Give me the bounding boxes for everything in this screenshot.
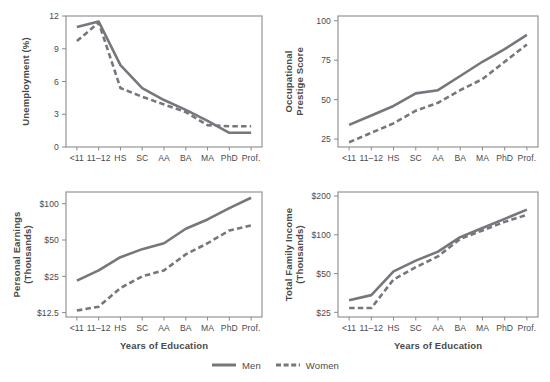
x-category-label: PhD [496,153,513,163]
x-category-label: MA [476,153,489,163]
x-category-label: AA [432,153,444,163]
y-axis-title-line: (Thousands) [294,225,305,284]
panel-personal-earnings: $12.5$25$50$100<1111–12HSSCAABAMAPhDProf… [0,184,275,356]
occupational-prestige-plot-frame [338,16,538,147]
y-axis-title: Personal Earnings(Thousands) [11,212,33,298]
x-axis-title: Years of Education [394,340,482,351]
x-category-label: 11–12 [87,323,111,333]
y-tick-label: 9 [54,44,59,54]
x-category-label: <11 [70,323,84,333]
y-axis-title-line: Personal Earnings [11,212,22,298]
y-axis-title: OccupationalPrestige Score [283,47,305,116]
y-tick-label: 100 [316,16,331,26]
legend-swatch-women-dashed [275,361,301,369]
y-tick-label: $25 [316,308,331,318]
x-category-label: <11 [342,153,356,163]
y-axis-title-line: Unemployment (%) [20,37,31,125]
y-axis-title: Total Family Income(Thousands) [283,208,305,301]
x-category-label: PhD [221,153,238,163]
x-category-label: AA [158,153,170,163]
x-category-label: BA [180,323,192,333]
chart-legend: Men Women [0,352,550,378]
x-category-label: HS [114,323,126,333]
panel-occupational-prestige: 255075100<1111–12HSSCAABAMAPhDProf.Occup… [272,2,550,182]
legend-entry-men: Men [211,360,261,371]
x-category-label: SC [136,153,148,163]
y-tick-label: 12 [49,11,59,21]
x-axis-title: Years of Education [120,340,208,351]
legend-label-women: Women [306,360,339,371]
x-category-label: 11–12 [359,323,383,333]
legend-swatch-men-solid [211,361,237,369]
x-category-label: PhD [221,323,238,333]
y-tick-label: 25 [321,134,331,144]
total-family-income-chart-svg: $25$50$100$200<1111–12HSSCAABAMAPhDProf.… [272,184,550,356]
x-category-label: AA [432,323,444,333]
x-category-label: BA [454,153,466,163]
x-category-label: MA [201,153,214,163]
x-category-label: Prof. [242,323,261,333]
occupational-prestige-chart-svg: 255075100<1111–12HSSCAABAMAPhDProf.Occup… [272,2,550,182]
y-tick-label: $50 [44,235,59,245]
x-category-label: <11 [342,323,356,333]
x-category-label: BA [454,323,466,333]
x-category-label: <11 [70,153,84,163]
x-category-label: SC [410,153,422,163]
y-axis-title-line: Prestige Score [294,47,305,116]
x-category-label: MA [476,323,489,333]
legend-label-men: Men [242,360,261,371]
x-category-label: HS [114,153,126,163]
y-axis-title: Unemployment (%) [20,37,31,125]
series-line-women [349,44,527,142]
y-tick-label: $25 [44,272,59,282]
y-tick-label: 0 [54,142,59,152]
unemployment-chart-svg: 036912<1111–12HSSCAABAMAPhDProf.Unemploy… [0,2,275,182]
x-category-label: BA [180,153,192,163]
y-tick-label: 50 [321,95,331,105]
x-category-label: SC [410,323,422,333]
y-tick-label: $12.5 [37,308,59,318]
series-line-women [349,215,527,308]
y-tick-label: $200 [311,191,331,201]
personal-earnings-plot-frame [66,192,262,317]
y-tick-label: $50 [316,269,331,279]
y-tick-label: 6 [54,77,59,87]
panel-unemployment: 036912<1111–12HSSCAABAMAPhDProf.Unemploy… [0,2,275,182]
legend-entry-women: Women [275,360,339,371]
y-axis-title-line: Total Family Income [283,208,294,301]
series-line-women [77,23,251,127]
y-axis-title-line: Occupational [283,51,294,113]
x-category-label: MA [201,323,214,333]
x-category-label: HS [387,153,399,163]
x-category-label: Prof. [518,323,537,333]
x-category-label: 11–12 [87,153,111,163]
x-category-label: Prof. [518,153,537,163]
y-tick-label: $100 [311,230,331,240]
y-tick-label: $100 [39,199,59,209]
panel-total-family-income: $25$50$100$200<1111–12HSSCAABAMAPhDProf.… [272,184,550,356]
y-tick-label: 75 [321,55,331,65]
x-category-label: SC [136,323,148,333]
personal-earnings-chart-svg: $12.5$25$50$100<1111–12HSSCAABAMAPhDProf… [0,184,275,356]
x-category-label: AA [158,323,170,333]
x-category-label: Prof. [242,153,261,163]
x-category-label: 11–12 [359,153,383,163]
x-category-label: PhD [496,323,513,333]
series-line-men [77,198,251,281]
multi-panel-line-chart-figure: 036912<1111–12HSSCAABAMAPhDProf.Unemploy… [0,0,550,382]
series-line-men [349,35,527,125]
x-category-label: HS [387,323,399,333]
y-axis-title-line: (Thousands) [22,225,33,284]
y-tick-label: 3 [54,109,59,119]
total-family-income-plot-frame [338,192,538,317]
